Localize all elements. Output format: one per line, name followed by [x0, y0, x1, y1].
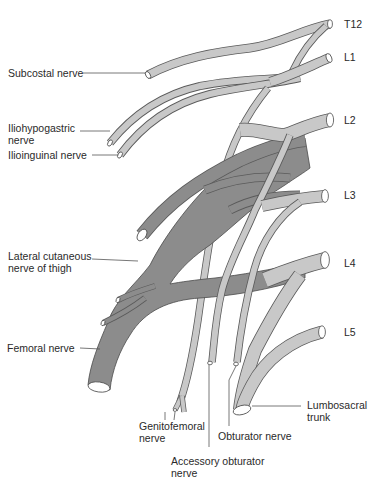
root-label-t12: T12 [344, 18, 362, 30]
root-label-l5: L5 [344, 326, 356, 338]
root-label-l3: L3 [344, 189, 356, 201]
label-lumbosacral-trunk: Lumbosacral trunk [307, 399, 367, 423]
genitofemoral-nerve [173, 396, 184, 412]
label-obturator-nerve: Obturator nerve [218, 430, 292, 442]
obturator-nerve [234, 362, 239, 366]
label-genitofemoral-nerve: Genitofemoral nerve [139, 420, 205, 444]
label-femoral-nerve: Femoral nerve [7, 342, 75, 354]
root-label-l4: L4 [344, 257, 356, 269]
root-label-l2: L2 [344, 114, 356, 126]
label-iliohypogastric-nerve: Iliohypogastric nerve [8, 122, 75, 146]
root-label-l1: L1 [344, 51, 356, 63]
label-lateral-cutaneous-nerve-of-thigh: Lateral cutaneous nerve of thigh [8, 250, 91, 274]
label-accessory-obturator-nerve: Accessory obturator nerve [171, 455, 264, 479]
accessory-obturator-nerve [208, 361, 213, 365]
label-subcostal-nerve: Subcostal nerve [8, 67, 83, 79]
label-ilioinguinal-nerve: Ilioinguinal nerve [8, 149, 87, 161]
